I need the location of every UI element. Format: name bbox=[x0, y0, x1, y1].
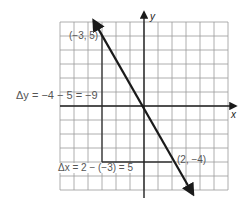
coordinate-plane bbox=[0, 0, 248, 207]
point-label-2: (2, −4) bbox=[177, 155, 206, 165]
delta-y-annotation: Δy = −4 − 5 = −9 bbox=[16, 90, 98, 101]
point-label-1: (−3, 5) bbox=[69, 31, 98, 41]
x-axis-label: x bbox=[231, 110, 236, 120]
delta-x-annotation: Δx = 2 − (−3) = 5 bbox=[57, 163, 134, 173]
y-axis-label: y bbox=[150, 12, 155, 22]
